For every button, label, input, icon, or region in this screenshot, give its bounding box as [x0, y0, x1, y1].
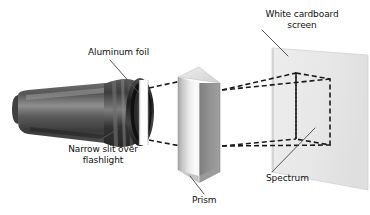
label-spectrum: Spectrum — [266, 173, 309, 184]
label-white-cardboard-screen-line2: screen — [287, 20, 316, 30]
label-white-cardboard-screen: White cardboardscreen — [256, 9, 348, 31]
label-white-cardboard-screen-line1: White cardboard — [265, 9, 338, 19]
label-narrow-slit: Narrow slit overflashlight — [55, 144, 151, 166]
white-cardboard-screen — [272, 48, 368, 190]
label-prism: Prism — [192, 195, 216, 206]
label-narrow-slit-line2: flashlight — [83, 155, 124, 165]
label-narrow-slit-line1: Narrow slit over — [68, 144, 138, 154]
label-aluminum-foil: Aluminum foil — [88, 47, 149, 58]
aluminum-foil-with-slit — [127, 79, 153, 145]
physics-diagram: Aluminum foil White cardboardscreen Narr… — [0, 0, 370, 215]
triangular-prism — [178, 67, 220, 183]
